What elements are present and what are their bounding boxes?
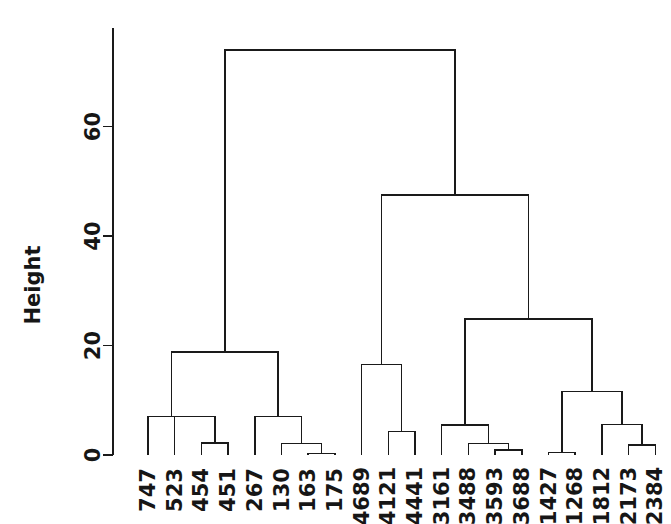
leaf-label-130: 130 [270, 468, 294, 512]
link-m4 [308, 453, 335, 455]
leaf-label-451: 451 [216, 468, 240, 512]
leaf-label-1812: 1812 [590, 467, 614, 524]
leaf-labels: 7475234544512671301631754689412144413161… [136, 467, 667, 524]
link-m14 [629, 445, 656, 455]
dendrogram-canvas: 6040200 Height 7475234544512671301631754… [0, 0, 671, 524]
y-tick-label-40: 40 [81, 221, 105, 250]
y-axis-title: Height [21, 245, 45, 324]
leaf-label-2173: 2173 [617, 467, 641, 524]
dendrogram-links [148, 50, 655, 455]
link-m7 [171, 352, 278, 417]
y-tick-label-0: 0 [81, 448, 105, 463]
leaf-label-523: 523 [163, 468, 187, 512]
link-m2 [175, 417, 215, 455]
link-m17 [465, 319, 592, 425]
link-m8 [388, 431, 415, 455]
y-axis-title-text: Height [21, 245, 45, 324]
link-m19 [225, 50, 455, 352]
leaf-label-4121: 4121 [376, 467, 400, 524]
leaf-label-3161: 3161 [430, 467, 454, 524]
link-m10 [495, 450, 522, 455]
leaf-label-1427: 1427 [537, 467, 561, 524]
link-m9 [362, 365, 402, 455]
link-m16 [562, 391, 622, 452]
leaf-label-3488: 3488 [456, 467, 480, 524]
dendrogram-plot: 6040200 Height 7475234544512671301631754… [0, 0, 671, 524]
leaf-label-4689: 4689 [350, 467, 374, 524]
y-tick-label-60: 60 [81, 112, 105, 141]
y-axis-tick-labels: 6040200 [81, 112, 105, 462]
link-m11 [468, 444, 508, 455]
link-m13 [549, 452, 576, 455]
link-m15 [602, 424, 642, 455]
leaf-label-267: 267 [243, 468, 267, 512]
link-m6 [255, 417, 302, 455]
leaf-label-454: 454 [189, 468, 213, 512]
leaf-label-4441: 4441 [403, 467, 427, 524]
y-tick-label-20: 20 [81, 331, 105, 360]
leaf-label-175: 175 [323, 468, 347, 512]
link-m1 [201, 443, 228, 455]
link-m3 [148, 417, 195, 455]
link-m12 [442, 425, 489, 455]
leaf-label-3593: 3593 [483, 467, 507, 524]
leaf-label-2384: 2384 [643, 467, 667, 524]
link-m18 [382, 195, 529, 365]
leaf-label-1268: 1268 [563, 467, 587, 524]
leaf-label-163: 163 [296, 468, 320, 512]
leaf-label-747: 747 [136, 468, 160, 512]
leaf-label-3688: 3688 [510, 467, 534, 524]
